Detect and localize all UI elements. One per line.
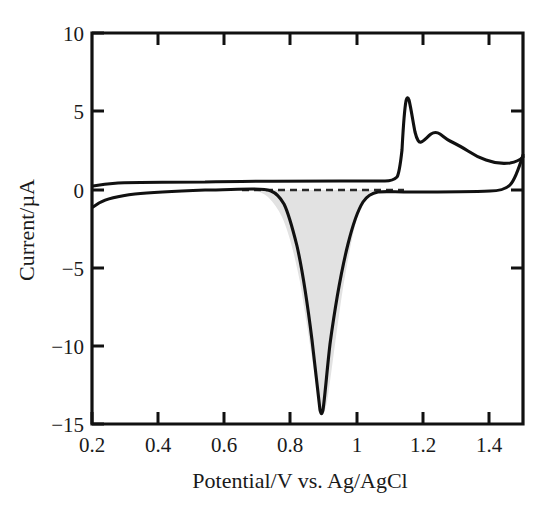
anodic-scan-trace — [93, 98, 523, 186]
cyclic-voltammogram-figure: 10 5 0 −5 −10 −15 0.2 0.4 0.6 0.8 1 1.2 … — [0, 0, 541, 510]
x-tick-label-0-8: 0.8 — [277, 433, 303, 457]
y-axis-right-ticks — [511, 111, 523, 268]
x-axis-ticks — [92, 412, 489, 424]
x-tick-label-0-4: 0.4 — [145, 433, 172, 457]
y-tick-label-5: 5 — [74, 100, 85, 124]
x-tick-label-1-0: 1 — [352, 433, 363, 457]
y-axis-ticks — [92, 33, 104, 424]
x-axis-top-ticks — [158, 33, 489, 45]
peak-area-shading — [248, 190, 382, 414]
x-tick-label-1-2: 1.2 — [410, 433, 436, 457]
y-axis-title: Current/µA — [14, 179, 39, 281]
x-tick-label-0-6: 0.6 — [211, 433, 237, 457]
y-tick-labels: 10 5 0 −5 −10 −15 — [51, 22, 84, 437]
x-axis-title: Potential/V vs. Ag/AgCl — [192, 468, 407, 493]
y-tick-label-0: 0 — [74, 179, 85, 203]
y-tick-label-10: 10 — [63, 22, 84, 46]
x-tick-label-1-4: 1.4 — [476, 433, 503, 457]
plot-canvas: 10 5 0 −5 −10 −15 0.2 0.4 0.6 0.8 1 1.2 … — [0, 0, 541, 510]
x-tick-labels: 0.2 0.4 0.6 0.8 1 1.2 1.4 — [79, 433, 503, 457]
y-tick-label-minus10: −10 — [51, 335, 84, 359]
x-tick-label-0-2: 0.2 — [79, 433, 105, 457]
y-tick-label-minus5: −5 — [62, 257, 84, 281]
